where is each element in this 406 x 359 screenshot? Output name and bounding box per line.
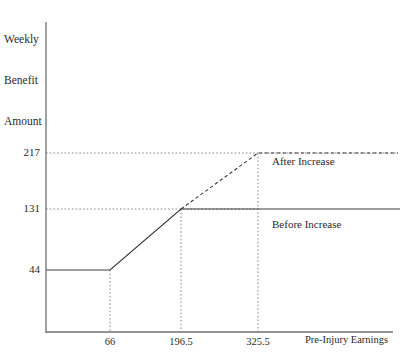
y-tick-label-44: 44	[2, 263, 40, 276]
y-tick-label-217: 217	[2, 146, 40, 159]
chart-plot-area	[0, 0, 406, 359]
x-tick-label-325-5: 325.5	[230, 336, 286, 348]
series-label-after-increase: After Increase	[272, 155, 335, 168]
y-axis-title-line-2: Benefit	[4, 74, 42, 88]
y-tick-label-131: 131	[2, 202, 40, 215]
y-axis-title: Weekly Benefit Amount	[4, 6, 42, 155]
x-tick-label-66: 66	[82, 336, 138, 348]
y-axis-title-line-1: Weekly	[4, 33, 42, 47]
x-tick-label-196-5: 196.5	[153, 336, 209, 348]
series-line-before-increase	[46, 209, 400, 270]
benefit-amount-chart: Weekly Benefit Amount 217 131 44 66 196.…	[0, 0, 406, 359]
y-axis-title-line-3: Amount	[4, 115, 42, 129]
series-label-before-increase: Before Increase	[272, 218, 341, 231]
x-axis-title: Pre-Injury Earnings	[305, 334, 388, 346]
